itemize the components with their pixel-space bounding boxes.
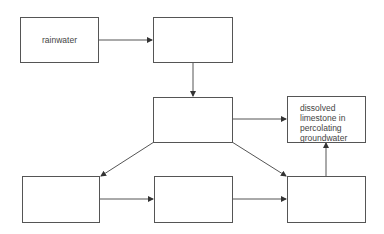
node-bottom-left xyxy=(22,176,100,223)
node-label-line: groundwater xyxy=(300,133,365,143)
node-label: rainwater xyxy=(42,35,77,45)
node-box3 xyxy=(153,97,233,143)
node-dissolved-limestone: dissolved limestone in percolating groun… xyxy=(287,96,366,143)
node-label-line: percolating xyxy=(300,123,365,133)
node-bottom-mid xyxy=(154,176,233,223)
node-label-line: limestone in xyxy=(300,113,365,123)
arrow-box3-to-bottom-left xyxy=(101,142,154,176)
arrow-box3-to-bottom-right xyxy=(232,142,286,176)
node-bottom-right xyxy=(287,176,366,223)
node-label-line: dissolved xyxy=(300,103,365,113)
node-rainwater: rainwater xyxy=(20,17,99,63)
node-box2 xyxy=(153,17,233,63)
